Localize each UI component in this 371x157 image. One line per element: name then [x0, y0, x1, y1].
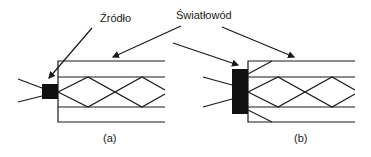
source-square-a	[42, 84, 58, 99]
arrow-source-b	[173, 43, 238, 65]
diagram-b	[173, 27, 355, 122]
emission-ray-down-b	[203, 99, 232, 107]
label-source: Źródło	[100, 12, 131, 24]
emission-ray-up-a	[18, 79, 42, 88]
fiber-cladding-a	[58, 61, 165, 122]
caption-b: (b)	[294, 132, 307, 144]
arrow-source-a	[49, 28, 92, 78]
emission-ray-down-a	[18, 96, 42, 102]
label-fiber: Światłowód	[176, 9, 232, 21]
arrow-fiber-b	[222, 27, 294, 57]
diagram-a	[18, 26, 181, 122]
caption-a: (a)	[103, 132, 116, 144]
ray-lost-bottom-b	[248, 110, 272, 122]
source-rect-b	[232, 69, 248, 114]
ray-lost-top-b	[248, 61, 272, 74]
fiber-cladding-b	[248, 61, 355, 122]
arrow-fiber-a	[113, 26, 181, 57]
emission-ray-up-b	[203, 77, 232, 85]
fiber-coupling-diagram	[0, 0, 371, 157]
